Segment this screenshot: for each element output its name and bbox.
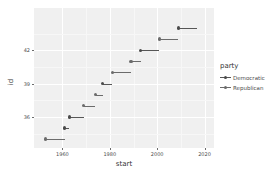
data-point [111,71,114,74]
gridline-vertical-minor [86,8,87,148]
term-segment [179,28,198,29]
plot-panel [34,8,214,148]
legend-item-democratic[interactable]: Democratic [220,73,276,82]
y-axis-title: id [7,67,15,97]
gridline-horizontal [34,50,214,51]
y-tick-mark [32,84,34,85]
x-tick-mark [110,148,111,150]
gridline-horizontal-minor [34,34,214,35]
y-tick-mark [32,50,34,51]
legend-item-label: Republican [233,85,263,91]
data-point [158,37,161,40]
term-segment [141,50,160,51]
term-segment [70,117,84,118]
data-point [129,60,132,63]
legend-title: party [220,62,276,70]
data-point [139,49,142,52]
x-tick-mark [205,148,206,150]
gridline-vertical [157,8,158,148]
gridline-horizontal [34,84,214,85]
term-segment [84,106,96,107]
x-axis-title: start [34,160,214,168]
gridline-horizontal-minor [34,100,214,101]
term-segment [46,139,65,140]
data-point [177,26,180,29]
gridline-vertical [205,8,206,148]
gridline-horizontal [34,117,214,118]
legend-item-republican[interactable]: Republican [220,83,276,92]
data-point [68,115,71,118]
x-tick-label: 2020 [198,151,211,157]
term-segment [160,39,179,40]
legend: party DemocraticRepublican [220,62,276,93]
gridline-vertical-minor [134,8,135,148]
y-tick-mark [32,117,34,118]
x-tick-label: 2000 [151,151,164,157]
gridline-vertical-minor [181,8,182,148]
term-segment [112,72,131,73]
x-tick-label: 1980 [103,151,116,157]
legend-key-icon [220,83,231,92]
data-point [82,104,85,107]
gridline-horizontal-minor [34,134,214,135]
term-segment [103,84,113,85]
y-tick-label: 36 [12,114,30,120]
data-point [94,93,97,96]
x-tick-mark [157,148,158,150]
chart-root: 1960198020002020 363942 start id party D… [0,0,277,173]
x-tick-label: 1960 [56,151,69,157]
legend-item-label: Democratic [233,75,265,81]
data-point [101,82,104,85]
x-tick-mark [62,148,63,150]
legend-items: DemocraticRepublican [220,73,276,92]
gridline-vertical [110,8,111,148]
y-tick-label: 42 [12,47,30,53]
gridline-horizontal-minor [34,67,214,68]
legend-key-icon [220,73,231,82]
data-point [44,137,47,140]
data-point [63,126,66,129]
